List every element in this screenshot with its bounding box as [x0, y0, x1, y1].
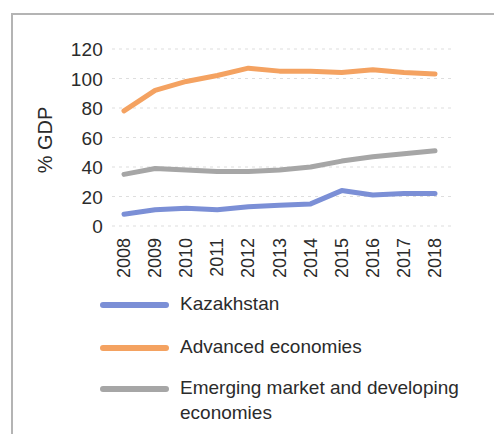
- legend-label: Kazakhstan: [180, 293, 279, 314]
- y-axis-tick-label: 0: [92, 216, 103, 237]
- series-line-advanced-economies: [124, 68, 435, 111]
- x-axis-tick-label: 2015: [332, 238, 352, 278]
- series-line-emerging-market-and-developing-economies: [124, 151, 435, 175]
- x-axis-tick-labels: 2008200920102011201220132014201520162017…: [114, 238, 445, 278]
- y-axis-tick-labels: 020406080100120: [71, 39, 103, 237]
- y-axis-title: % GDP: [34, 107, 56, 174]
- y-axis-tick-label: 20: [81, 187, 103, 208]
- x-axis-tick-label: 2014: [301, 238, 321, 278]
- series-line-kazakhstan: [124, 191, 435, 215]
- chart-legend: KazakhstanAdvanced economiesEmerging mar…: [103, 293, 459, 423]
- chart-figure: 020406080100120 % GDP 200820092010201120…: [0, 0, 494, 434]
- y-axis-tick-label: 60: [81, 128, 103, 149]
- x-axis-tick-label: 2013: [270, 238, 290, 278]
- x-axis-tick-label: 2017: [394, 238, 414, 278]
- legend-label: Emerging market and developing: [180, 377, 459, 398]
- y-axis-tick-label: 100: [71, 69, 103, 90]
- data-series-group: [124, 68, 435, 214]
- y-axis-tick-label: 80: [81, 98, 103, 119]
- legend-label: Advanced economies: [180, 336, 362, 357]
- x-axis-tick-label: 2010: [176, 238, 196, 278]
- legend-label-continued: economies: [180, 402, 272, 423]
- x-axis-tick-label: 2016: [363, 238, 383, 278]
- x-axis-tick-label: 2012: [238, 238, 258, 278]
- plot-area-container: 020406080100120 % GDP 200820092010201120…: [0, 0, 494, 434]
- line-chart-svg: 020406080100120 % GDP 200820092010201120…: [0, 0, 494, 434]
- y-axis-tick-label: 120: [71, 39, 103, 60]
- x-axis-tick-label: 2018: [425, 238, 445, 278]
- x-axis-tick-label: 2008: [114, 238, 134, 278]
- x-axis-tick-label: 2011: [207, 238, 227, 277]
- x-axis-tick-label: 2009: [145, 238, 165, 278]
- gridlines-group: [112, 49, 452, 226]
- y-axis-tick-label: 40: [81, 157, 103, 178]
